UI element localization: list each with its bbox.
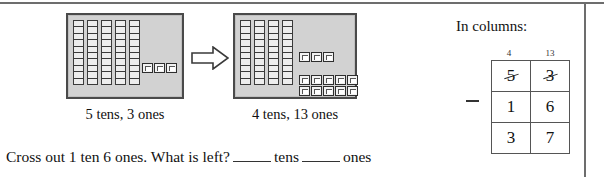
rod-unit xyxy=(268,78,279,85)
rod-unit xyxy=(129,78,140,85)
ten-rod xyxy=(115,20,126,85)
rod-unit xyxy=(240,78,251,85)
unit-cube xyxy=(311,86,322,96)
cell-subtrahend-ones: 6 xyxy=(531,92,570,123)
struck-digit: 5 xyxy=(507,66,516,86)
ten-rod xyxy=(129,20,140,85)
right-arrow-icon xyxy=(191,46,229,70)
rod-unit xyxy=(115,78,126,85)
answer-blank-tens[interactable] xyxy=(233,161,271,162)
label-tens: tens xyxy=(274,148,299,165)
unit-cube xyxy=(323,86,334,96)
table-row: 1 6 xyxy=(492,92,570,123)
columns-panel-title: In columns: xyxy=(456,18,527,35)
worksheet-page: 5 tens, 3 ones 4 tens, 13 ones Cross out… xyxy=(0,0,604,177)
ten-rod xyxy=(254,20,265,85)
caption-left: 5 tens, 3 ones xyxy=(64,106,186,123)
ones-cubes-left xyxy=(142,63,184,73)
ones-cubes-right-rows23 xyxy=(299,75,369,96)
question-prompt: Cross out 1 ten 6 ones. What is left? xyxy=(6,148,230,165)
ones-cubes-right-row1 xyxy=(299,52,341,62)
unit-cube xyxy=(311,52,322,62)
ten-rod xyxy=(268,20,279,85)
rod-unit xyxy=(254,78,265,85)
ten-rod xyxy=(73,20,84,85)
cell-difference-tens: 3 xyxy=(492,123,531,154)
question-line: Cross out 1 ten 6 ones. What is left?ten… xyxy=(6,148,371,166)
rod-unit xyxy=(87,78,98,85)
unit-cube xyxy=(166,63,177,73)
rod-unit xyxy=(73,78,84,85)
column-subtraction-table: 5 3 1 6 3 7 xyxy=(491,60,570,154)
unit-cube xyxy=(299,75,310,85)
ten-rod xyxy=(87,20,98,85)
top-rule xyxy=(0,2,604,4)
table-row: 3 7 xyxy=(492,123,570,154)
regroup-ones-mark: 13 xyxy=(530,48,570,58)
cell-minuend-ones: 3 xyxy=(531,61,570,92)
table-row: 5 3 xyxy=(492,61,570,92)
right-rule xyxy=(584,2,586,177)
unit-cube xyxy=(299,86,310,96)
tens-rods-right xyxy=(240,20,293,85)
unit-cube xyxy=(154,63,165,73)
caption-right: 4 tens, 13 ones xyxy=(230,106,360,123)
ten-rod xyxy=(282,20,293,85)
ten-rod xyxy=(101,20,112,85)
unit-cube xyxy=(311,75,322,85)
cell-minuend-tens: 5 xyxy=(492,61,531,92)
label-ones: ones xyxy=(343,148,371,165)
unit-cube xyxy=(347,75,358,85)
struck-digit: 3 xyxy=(546,66,555,86)
tens-rods-left xyxy=(73,20,140,85)
unit-cube xyxy=(347,86,358,96)
unit-cube xyxy=(299,52,310,62)
rod-unit xyxy=(282,78,293,85)
base-ten-box-left xyxy=(66,13,184,99)
base-ten-box-right xyxy=(233,13,357,99)
regroup-tens-mark: 4 xyxy=(489,48,529,58)
cell-subtrahend-tens: 1 xyxy=(492,92,531,123)
answer-blank-ones[interactable] xyxy=(302,161,340,162)
unit-cube xyxy=(335,75,346,85)
unit-cube xyxy=(335,86,346,96)
ten-rod xyxy=(240,20,251,85)
cell-difference-ones: 7 xyxy=(531,123,570,154)
minus-sign-icon xyxy=(466,100,479,102)
unit-cube xyxy=(142,63,153,73)
unit-cube xyxy=(323,52,334,62)
rod-unit xyxy=(101,78,112,85)
unit-cube xyxy=(323,75,334,85)
